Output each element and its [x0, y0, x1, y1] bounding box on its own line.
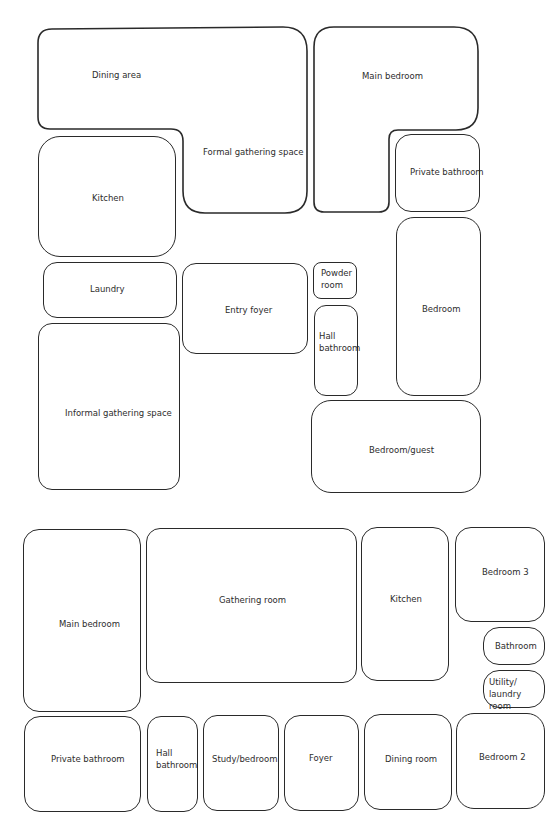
room-label-laundry: Laundry — [90, 283, 125, 295]
room-powder-room: Powder room — [313, 262, 357, 299]
room-label-formal-gathering-space: Formal gathering space — [203, 146, 304, 158]
room-bedroom-guest: Bedroom/guest — [311, 400, 481, 493]
floor-plan-diagram: Dining area Formal gathering space Main … — [0, 0, 559, 832]
room-label-bedroom-guest: Bedroom/guest — [369, 444, 434, 456]
room-label-main-bedroom-2: Main bedroom — [59, 618, 120, 630]
room-private-bathroom-2: Private bathroom — [24, 716, 141, 812]
room-label-private-bathroom: Private bathroom — [410, 166, 484, 178]
room-gathering-room: Gathering room — [146, 528, 357, 683]
room-bedroom-2: Bedroom 2 — [456, 713, 545, 809]
room-bathroom: Bathroom — [483, 627, 545, 665]
room-kitchen-2: Kitchen — [361, 527, 449, 681]
room-hall-bathroom: Hall bathroom — [314, 305, 358, 396]
room-label-private-bathroom-2: Private bathroom — [51, 753, 125, 765]
room-label-entry-foyer: Entry foyer — [225, 304, 272, 316]
room-label-informal-gathering-space: Informal gathering space — [65, 407, 172, 419]
room-label-powder-room: Powder room — [321, 267, 352, 291]
room-dining-room: Dining room — [364, 714, 452, 810]
room-label-hall-bathroom: Hall bathroom — [319, 330, 360, 354]
room-label-bathroom: Bathroom — [495, 640, 537, 652]
room-bedroom-3: Bedroom 3 — [455, 527, 545, 622]
room-laundry: Laundry — [43, 262, 177, 318]
room-label-dining-area: Dining area — [92, 69, 141, 81]
room-hall-bathroom-2: Hall bathroom — [147, 716, 198, 812]
room-kitchen: Kitchen — [38, 136, 176, 257]
room-label-gathering-room: Gathering room — [219, 594, 286, 606]
room-private-bathroom: Private bathroom — [395, 134, 480, 212]
room-label-study-bedroom: Study/bedroom — [212, 753, 277, 765]
room-label-bedroom: Bedroom — [422, 303, 460, 315]
room-label-main-bedroom: Main bedroom — [362, 70, 423, 82]
room-study-bedroom: Study/bedroom — [203, 715, 279, 811]
room-main-bedroom-2: Main bedroom — [23, 529, 141, 712]
room-entry-foyer: Entry foyer — [182, 263, 308, 354]
room-label-kitchen-2: Kitchen — [390, 593, 422, 605]
room-label-utility-laundry-room: Utility/ laundry room — [489, 676, 544, 712]
room-utility-laundry-room: Utility/ laundry room — [483, 670, 545, 708]
room-label-dining-room: Dining room — [385, 753, 437, 765]
room-label-hall-bathroom-2: Hall bathroom — [156, 747, 197, 771]
room-label-foyer: Foyer — [309, 752, 333, 764]
room-label-kitchen: Kitchen — [92, 192, 124, 204]
room-label-bedroom-2: Bedroom 2 — [479, 751, 526, 763]
room-bedroom: Bedroom — [396, 217, 481, 396]
room-label-bedroom-3: Bedroom 3 — [482, 566, 529, 578]
room-foyer: Foyer — [284, 715, 359, 811]
room-informal-gathering-space: Informal gathering space — [38, 323, 180, 490]
